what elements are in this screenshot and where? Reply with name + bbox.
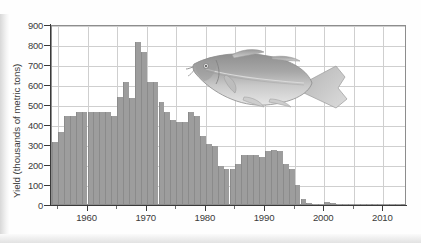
x-axis-tick-label: 2000	[313, 212, 334, 223]
x-axis-tick	[323, 206, 324, 211]
y-axis-tick	[44, 105, 51, 106]
x-axis-tick	[146, 206, 147, 211]
x-axis-tick-label: 1960	[76, 212, 97, 223]
x-axis-tick-label: 1980	[195, 212, 216, 223]
x-axis-minor-tick	[116, 206, 117, 209]
y-axis-tick	[44, 165, 51, 166]
y-axis-tick	[44, 65, 51, 66]
x-axis-tick-label: 2010	[372, 212, 393, 223]
y-axis-ticks: 0100200300400500600700800900	[44, 24, 52, 206]
y-axis-tick	[44, 85, 51, 86]
x-axis-tick-label: 1990	[254, 212, 275, 223]
y-axis-tick	[44, 45, 51, 46]
y-axis-tick	[44, 185, 51, 186]
y-axis-tick-label: 800	[9, 40, 43, 51]
x-axis-tick	[382, 206, 383, 211]
y-axis-tick	[44, 125, 51, 126]
x-axis-tick	[87, 206, 88, 211]
page-bottom-shadow	[0, 234, 421, 243]
x-axis-tick-label: 1970	[135, 212, 156, 223]
x-axis-tick	[205, 206, 206, 211]
figure-page: of Newfoundland. As of 2016, the fishery…	[0, 0, 421, 243]
y-axis-tick	[44, 205, 51, 206]
x-axis-tick	[264, 206, 265, 211]
y-axis-tick-label: 900	[9, 20, 43, 31]
figure-caption: of Newfoundland. As of 2016, the fishery…	[0, 0, 421, 5]
page-left-shadow	[0, 14, 9, 243]
y-axis-tick-label: 0	[9, 200, 43, 211]
x-axis-minor-tick	[175, 206, 176, 209]
y-axis-tick	[44, 25, 51, 26]
x-axis-minor-tick	[57, 206, 58, 209]
y-axis-tick	[44, 145, 51, 146]
x-axis-minor-tick	[294, 206, 295, 209]
x-axis-minor-tick	[353, 206, 354, 209]
x-axis-minor-tick	[234, 206, 235, 209]
atlantic-cod-illustration	[186, 47, 354, 121]
y-axis-title: Yield (thousands of metric tons)	[11, 64, 22, 198]
